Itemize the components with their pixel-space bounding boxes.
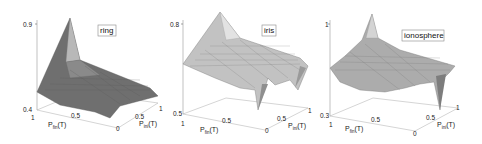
plot-title: iris — [264, 26, 274, 35]
y-axis-label: Pini(T) — [139, 120, 157, 129]
z-tick-top: 1 — [325, 21, 329, 28]
x-tick: 0 — [413, 130, 417, 137]
chart-figure: 0.9 0.4 ring 1 0.5 0 0.5 1 Pfin(T) Pini(… — [0, 0, 482, 144]
x-tick: 0 — [116, 125, 120, 132]
z-tick-top: 0.8 — [170, 21, 179, 28]
y-tick: 0.5 — [426, 114, 435, 121]
x-tick: 0.5 — [222, 117, 231, 124]
surface-plots: 0.9 0.4 ring 1 0.5 0 0.5 1 Pfin(T) Pini(… — [0, 0, 482, 144]
z-tick-top: 0.9 — [23, 21, 32, 28]
plot-iris: 0.8 0.5 iris 1 0.5 0 0.5 1 Pfin(T) Pini(… — [170, 12, 312, 135]
x-tick: 0.5 — [71, 112, 80, 119]
y-tick: 1 — [308, 107, 312, 114]
y-tick: 1 — [159, 105, 163, 112]
y-tick: 1 — [456, 104, 460, 111]
z-tick-bottom: 0.3 — [320, 112, 329, 119]
plot-title: ionosphere — [404, 31, 444, 40]
z-tick-bottom: 0.5 — [173, 110, 182, 117]
y-tick: 0.5 — [135, 113, 144, 120]
x-axis-label: Pfin(T) — [345, 125, 363, 134]
z-tick-bottom: 0.4 — [23, 106, 32, 113]
x-tick: 1 — [31, 114, 35, 121]
plot-ionosphere: 1 0.3 ionosphere 1 0.5 0 0.5 1 Pfin(T) P… — [320, 14, 460, 137]
x-tick: 0.5 — [371, 116, 380, 123]
x-tick: 0 — [265, 127, 269, 134]
x-tick: 1 — [329, 121, 333, 128]
y-axis-label: Pini(T) — [437, 121, 455, 130]
y-axis-label: Pini(T) — [288, 122, 306, 131]
x-tick: 1 — [181, 120, 185, 127]
plot-title: ring — [100, 26, 113, 35]
x-axis-label: Pfin(T) — [48, 121, 66, 130]
y-tick: 0.5 — [277, 115, 286, 122]
x-axis-label: Pfin(T) — [200, 126, 218, 135]
plot-ring: 0.9 0.4 ring 1 0.5 0 0.5 1 Pfin(T) Pini(… — [23, 18, 163, 132]
